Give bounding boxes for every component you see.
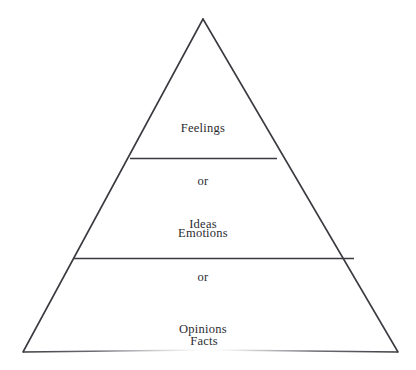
tier-label-ideas-line-2: or <box>179 269 227 287</box>
tier-label-facts: Facts <box>190 298 218 370</box>
pyramid-base-edge-right <box>212 350 398 352</box>
pyramid-right-edge <box>203 19 398 352</box>
pyramid-diagram: Feelings or Emotions Ideas or Opinions F… <box>0 0 416 370</box>
tier-label-facts-line-1: Facts <box>190 333 218 351</box>
tier-label-ideas-line-1: Ideas <box>179 216 227 234</box>
tier-label-feelings-line-1: Feelings <box>178 120 228 138</box>
pyramid-left-edge <box>23 19 203 352</box>
pyramid-base-edge-left <box>23 350 205 352</box>
